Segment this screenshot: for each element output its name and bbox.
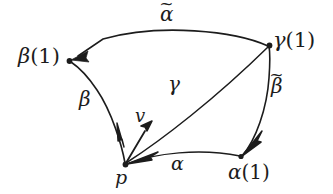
label-gamma-one-paren: (1)	[286, 28, 316, 52]
label-p: p	[115, 168, 127, 187]
label-alpha: α	[171, 154, 184, 173]
label-tangent-vector-v: v	[135, 107, 145, 125]
vertex-dot-beta-1	[67, 58, 73, 64]
label-beta-tilde-glyph: ~β	[271, 76, 283, 96]
alpha-tilde-arrowhead	[71, 51, 89, 62]
label-gamma: γ	[168, 74, 180, 94]
math-diagram-figure: β(1) γ(1) ~α ~β γ β v α p α(1)	[0, 0, 333, 194]
tilde-accent-alpha: ~	[159, 0, 173, 12]
vertex-dot-gamma-1	[267, 43, 273, 49]
tilde-accent-beta: ~	[269, 66, 283, 83]
label-alpha-tilde: ~α	[160, 4, 174, 24]
label-alpha-one: α(1)	[228, 162, 270, 182]
label-beta-one-paren: (1)	[30, 44, 60, 68]
label-gamma-one: γ(1)	[273, 30, 315, 51]
label-beta-one-greek: β	[18, 44, 30, 68]
beta-tilde-arrowhead	[242, 131, 262, 156]
label-gamma-one-greek: γ	[273, 28, 286, 52]
alpha-tilde-curve	[78, 30, 268, 56]
label-beta-tilde: ~β	[271, 76, 283, 96]
label-alpha-one-paren: (1)	[242, 160, 270, 184]
label-beta-one: β(1)	[18, 46, 60, 67]
label-beta: β	[79, 89, 91, 109]
label-alpha-one-greek: α	[228, 160, 242, 184]
beta-curve	[71, 62, 125, 163]
vertex-dot-alpha-1	[238, 154, 243, 159]
gamma-curve	[126, 47, 268, 163]
label-alpha-tilde-glyph: ~α	[160, 4, 174, 24]
